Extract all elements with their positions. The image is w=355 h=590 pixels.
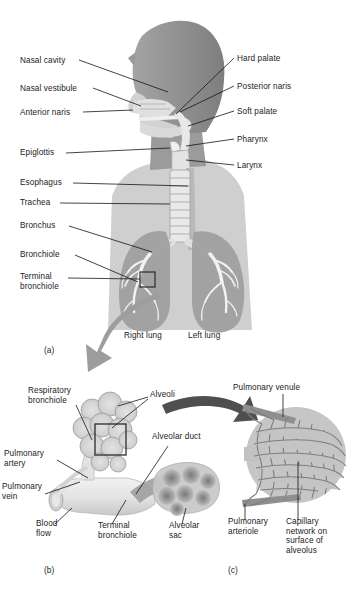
label-left-lung: Left lung [188,331,220,341]
label-larynx: Larynx [237,161,262,171]
label-terminal-bronchiole-b: Terminal bronchiole [98,521,137,540]
label-alveolar-duct: Alveolar duct [152,432,201,442]
label-bronchiole: Bronchiole [20,250,60,260]
label-pulmonary-artery: Pulmonary artery [4,449,44,468]
label-pulmonary-venule: Pulmonary venule [233,383,300,393]
label-alveolar-sac: Alveolar sac [169,521,199,540]
alveolar-cluster [73,392,137,472]
label-anterior-naris: Anterior naris [20,108,70,118]
label-soft-palate: Soft palate [237,107,277,117]
label-esophagus: Esophagus [20,178,62,188]
panel-a-anatomy [60,21,252,372]
alveolar-sac-cluster [153,463,220,517]
respiratory-system-figure: Nasal cavity Nasal vestibule Anterior na… [0,0,355,590]
label-blood-flow: Blood flow [36,519,57,538]
label-capillary-network: Capillary network on surface of alveolus [286,517,327,555]
alveolar-duct-stub [244,447,266,461]
label-terminal-bronchiole: Terminal bronchiole [20,272,59,291]
label-pulmonary-arteriole: Pulmonary arteriole [228,517,268,536]
panel-letter-a: (a) [44,345,54,355]
label-alveoli: Alveoli [150,390,175,400]
panel-letter-b: (b) [44,565,54,575]
label-trachea: Trachea [20,198,50,208]
label-posterior-naris: Posterior naris [237,82,291,92]
label-nasal-vestibule: Nasal vestibule [20,84,77,94]
label-epiglottis: Epiglottis [20,148,54,158]
panel-c-anatomy [242,394,346,520]
label-pharynx: Pharynx [237,135,268,145]
label-hard-palate: Hard palate [237,54,280,64]
label-nasal-cavity: Nasal cavity [20,56,65,66]
label-right-lung: Right lung [124,331,162,341]
label-respiratory-bronchiole: Respiratory bronchiole [28,386,71,405]
label-bronchus: Bronchus [20,221,55,231]
trachea-structure [170,170,190,242]
panel-letter-c: (c) [228,565,238,575]
panel-b-anatomy [45,392,258,524]
label-pulmonary-vein: Pulmonary vein [2,482,42,501]
